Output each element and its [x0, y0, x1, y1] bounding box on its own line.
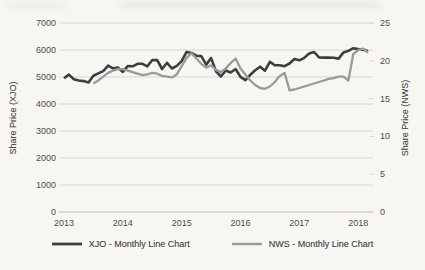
left-axis-tick-label: 3000	[36, 126, 56, 136]
x-axis-tick-label: 2013	[54, 218, 74, 228]
x-axis-tick-label: 2017	[289, 218, 309, 228]
scan-artifact	[6, 4, 66, 9]
scan-artifact	[120, 2, 380, 9]
right-axis-tick-label: 5	[380, 169, 385, 179]
legend-item-xjo: XJO - Monthly Line Chart	[52, 239, 190, 249]
right-axis-title: Share Price (NWS)	[400, 70, 412, 166]
left-axis-title: Share Price (XJO)	[8, 70, 20, 166]
left-axis-tick-label: 1000	[36, 180, 56, 190]
nws-line-swatch	[232, 241, 262, 247]
right-axis-tick-label: 10	[380, 131, 390, 141]
legend: XJO - Monthly Line Chart NWS - Monthly L…	[0, 239, 425, 249]
legend-item-nws: NWS - Monthly Line Chart	[232, 239, 374, 249]
legend-label-xjo: XJO - Monthly Line Chart	[89, 239, 190, 249]
legend-label-nws: NWS - Monthly Line Chart	[269, 239, 374, 249]
left-axis-tick-label: 6000	[36, 45, 56, 55]
right-axis-tick-label: 25	[380, 18, 390, 28]
x-axis-tick-label: 2014	[113, 218, 133, 228]
left-axis-tick-label: 7000	[36, 18, 56, 28]
left-axis-tick-label: 0	[51, 207, 56, 217]
right-axis-tick-label: 0	[380, 207, 385, 217]
nws-line-series	[93, 49, 368, 91]
x-axis-tick-label: 2018	[348, 218, 368, 228]
scanned-page: Share Price (XJO) Share Price (NWS) 0100…	[0, 0, 425, 270]
left-axis-tick-label: 4000	[36, 99, 56, 109]
left-axis-tick-label: 5000	[36, 72, 56, 82]
x-axis-tick-label: 2015	[172, 218, 192, 228]
xjo-line-swatch	[52, 241, 82, 247]
line-chart-plot-area: 0100020003000400050006000700005101520252…	[0, 0, 425, 236]
x-axis-tick-label: 2016	[231, 218, 251, 228]
left-axis-tick-label: 2000	[36, 153, 56, 163]
right-axis-tick-label: 15	[380, 94, 390, 104]
right-axis-tick-label: 20	[380, 56, 390, 66]
